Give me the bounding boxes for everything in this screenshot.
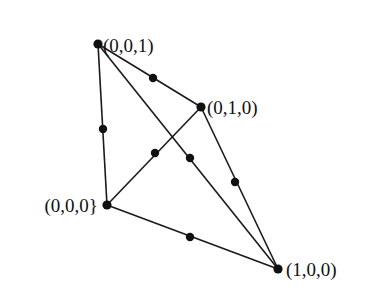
edge-midpoint-dot (99, 125, 107, 133)
edge-midpoint-dot (186, 154, 194, 162)
vertex-dot-010 (196, 102, 205, 111)
simplex-diagram: (0,0,1) (0,1,0) (0,0,0} (1,0,0) (0, 0, 380, 298)
edge-midpoint-dot (149, 74, 157, 82)
edge-midpoint-dot (151, 149, 159, 157)
vertex-dot-000 (102, 200, 111, 209)
vertex-label-010: (0,1,0) (207, 97, 258, 119)
vertex-dot-001 (93, 39, 102, 48)
edge-midpoint-dot (231, 178, 239, 186)
vertex-dot-100 (273, 264, 282, 273)
edge-midpoint-dot (186, 233, 194, 241)
vertex-label-000: (0,0,0} (45, 195, 98, 217)
vertex-label-100: (1,0,0) (286, 259, 337, 281)
vertex-label-001: (0,0,1) (103, 35, 154, 57)
edge-v001-v000 (98, 44, 107, 205)
